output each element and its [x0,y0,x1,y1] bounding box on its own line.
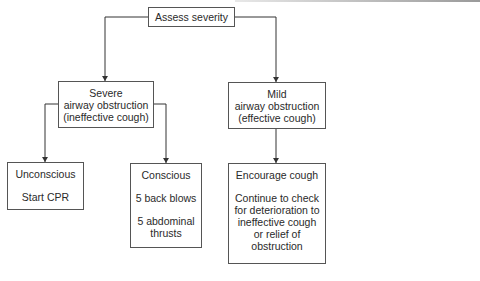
node-label: Assess severity [155,11,228,23]
edge-assess-mild [235,17,276,82]
node-action: for deterioration to [234,204,319,216]
node-heading: Unconscious [15,168,75,180]
node-label: airway obstruction [64,99,149,111]
node-action: thrusts [150,227,182,239]
edge-severe-unconscious [45,104,58,162]
node-label: Mild [267,88,286,100]
edge-severe-conscious [154,104,166,163]
node-heading: Conscious [141,169,190,181]
node-action: 5 back blows [136,192,197,204]
node-action: Start CPR [22,191,69,203]
node-label: (ineffective cough) [63,111,149,123]
node-heading: Encourage cough [236,169,318,181]
node-action: or relief of [254,228,301,240]
node-conscious: Conscious 5 back blows 5 abdominal thrus… [130,163,202,248]
node-encourage-cough: Encourage cough Continue to check for de… [228,163,326,264]
node-severe-obstruction: Severe airway obstruction (ineffective c… [58,81,154,128]
node-action: 5 abdominal [137,215,194,227]
node-mild-obstruction: Mild airway obstruction (effective cough… [228,82,326,129]
node-action: obstruction [251,240,302,252]
edge-assess-severe [105,17,148,81]
node-label: Severe [89,87,122,99]
node-action: Continue to check [235,192,319,204]
node-label: airway obstruction [235,100,320,112]
node-assess-severity: Assess severity [148,7,235,27]
node-unconscious: Unconscious Start CPR [7,162,84,210]
node-action: ineffective cough [238,216,317,228]
node-label: (effective cough) [238,112,315,124]
